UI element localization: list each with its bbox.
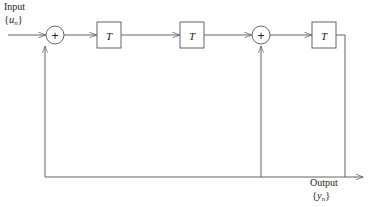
summing-junction-1-plus: + [51,29,58,43]
delay-block-1-label: T [106,30,113,42]
delay-block-2-label: T [189,30,196,42]
output-label: Output [310,178,338,189]
diagram-canvas: + + T T T Input {un} Output {yn} [0,0,381,207]
block-diagram-svg: + + T T T [0,0,381,207]
wire-delay3-to-output-bus [336,35,345,177]
input-signal-close: } [18,14,23,25]
summing-junction-2-plus: + [257,29,264,43]
output-signal-label: {yn} [312,190,330,203]
input-signal-label: {un} [4,14,23,27]
delay-block-3-label: T [321,30,328,42]
output-signal-close: } [325,190,330,201]
input-label: Input [4,2,25,13]
